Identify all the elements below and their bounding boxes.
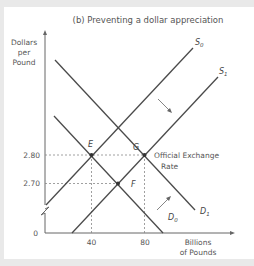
point-g-label: G [133, 143, 139, 152]
demand-curve-d1 [55, 60, 195, 210]
d1-label: D1 [200, 207, 210, 217]
demand-curve-d0 [54, 116, 163, 233]
s1-label: S1 [219, 67, 228, 77]
y-axis-label-3: Pound [12, 58, 35, 67]
y-axis-label-2: per [18, 48, 31, 57]
point-e-marker [90, 153, 94, 157]
s0-label: S0 [195, 38, 204, 48]
exchange-rate-chart: (b) Preventing a dollar appreciation Dol… [0, 0, 254, 266]
demand-shift-arrow-icon [157, 196, 171, 210]
x-axis-label-1: Billions [185, 238, 212, 247]
point-f-label: F [131, 180, 136, 189]
official-rate-label-2: Rate [161, 162, 179, 171]
y-tick-2-70: 2.70 [23, 179, 40, 188]
y-axis-label-1: Dollars [11, 38, 37, 47]
supply-shift-arrow-icon [158, 99, 172, 113]
x-axis-label-2: of Pounds [180, 248, 217, 257]
origin-label: 0 [33, 229, 38, 238]
point-e-label: E [88, 140, 94, 149]
official-rate-label-1: Official Exchange [154, 151, 219, 160]
y-tick-2-80: 2.80 [23, 151, 40, 160]
point-g-marker [143, 153, 147, 157]
x-tick-40: 40 [87, 238, 97, 247]
dashed-guides [45, 155, 145, 233]
d0-label: D0 [168, 213, 178, 223]
point-f-marker [116, 182, 120, 186]
x-tick-80: 80 [140, 238, 150, 247]
chart-title: (b) Preventing a dollar appreciation [73, 15, 224, 25]
